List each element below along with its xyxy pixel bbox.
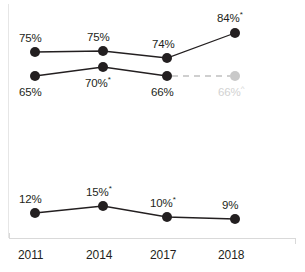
series-bottom-point-2014 — [98, 201, 108, 211]
series-middle-label-2014-value: 70% — [85, 77, 108, 89]
x-tick-label-2011: 2011 — [18, 248, 43, 262]
series-middle-point-2011 — [30, 71, 40, 81]
x-tick-label-2014: 2014 — [86, 248, 112, 262]
series-top-point-2017 — [162, 53, 172, 63]
series-bottom-label-2014-asterisk: * — [109, 184, 112, 193]
series-top-label-2017: 74% — [152, 38, 175, 50]
series-bottom-point-2018 — [230, 214, 240, 224]
series-top-label-2018-value: 84% — [217, 12, 240, 24]
series-middle-label-2014-asterisk: * — [108, 75, 111, 84]
series-middle-label-2018-value: 66% — [218, 86, 241, 98]
series-bottom-label-2018: 9% — [222, 199, 238, 211]
series-middle-label-2014: 70%* — [85, 77, 111, 89]
x-tick-label-2017: 2017 — [150, 248, 176, 262]
series-bottom-label-2017: 10%* — [150, 197, 176, 209]
series-top-label-2018-asterisk: * — [240, 10, 243, 19]
series-top-point-2014 — [98, 46, 108, 56]
x-tick-label-2018: 2018 — [218, 248, 244, 262]
series-top-point-2011 — [30, 47, 40, 57]
series-top-label-2018: 84%* — [217, 12, 243, 24]
series-bottom-label-2017-asterisk: * — [173, 195, 176, 204]
series-bottom-label-2017-value: 10% — [150, 197, 173, 209]
series-bottom-label-2014-value: 15% — [86, 186, 109, 198]
series-middle-label-2018-caret: ^ — [241, 84, 245, 93]
series-bottom-point-2011 — [30, 208, 40, 218]
series-top-line — [35, 33, 235, 58]
series-middle-point-2017 — [162, 71, 172, 81]
series-middle-point-2014 — [98, 62, 108, 72]
series-top-label-2011: 75% — [19, 32, 42, 44]
series-middle-label-2017: 66% — [151, 86, 174, 98]
series-bottom-label-2011: 12% — [19, 193, 42, 205]
series-bottom-label-2014: 15%* — [86, 186, 112, 198]
series-middle-label-2018-muted: 66%^ — [218, 86, 244, 98]
series-middle-point-2018-muted — [230, 71, 240, 81]
series-bottom-point-2017 — [162, 212, 172, 222]
line-chart: 75% 75% 74% 84%* 65% 70%* 66% 66%^ 12% 1… — [0, 0, 305, 272]
series-middle-label-2011: 65% — [19, 86, 42, 98]
series-top-point-2018 — [230, 28, 240, 38]
series-top-label-2014: 75% — [87, 31, 110, 43]
series-bottom-line — [35, 206, 235, 219]
